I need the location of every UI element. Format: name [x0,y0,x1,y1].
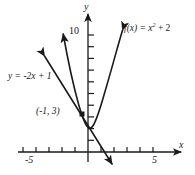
line-equation-label: y = -2x + 1 [8,72,51,82]
y-axis-label: y [84,2,88,12]
x-axis [18,147,181,152]
function-equation-tail: + 2 [156,23,171,33]
x-tick-label-5: 5 [152,155,157,165]
x-axis-label: x [179,140,183,150]
y-tick-label-10: 10 [69,26,79,36]
point-coordinate-label: (-1, 3) [36,107,60,117]
point-marker [80,112,85,117]
parabola-curve [63,30,122,128]
function-equation-head: f(x) = x [124,23,153,33]
math-graph-figure: y x 10 -5 5 f(x) = x2 + 2 y = -2x + 1 (-… [0,0,195,175]
y-axis [88,14,94,162]
function-equation-label: f(x) = x2 + 2 [124,23,170,34]
x-tick-label-neg5: -5 [25,155,33,165]
